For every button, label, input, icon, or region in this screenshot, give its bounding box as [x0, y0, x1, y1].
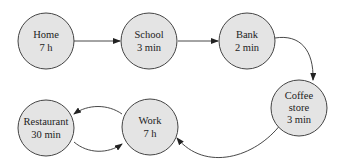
node-label: Restaurant — [24, 116, 69, 127]
node-label: School — [134, 29, 163, 40]
node-school: School 3 min — [121, 13, 177, 69]
node-value: 30 min — [31, 129, 61, 140]
node-work: Work 7 h — [122, 99, 178, 155]
node-label: Bank — [236, 29, 259, 40]
node-bank: Bank 2 min — [219, 13, 275, 69]
node-label: Work — [138, 115, 162, 126]
node-label: store — [289, 102, 310, 113]
edge-work-restaurant — [74, 107, 122, 115]
node-coffee-store: Coffee store 3 min — [271, 80, 327, 136]
edge-restaurant-work — [74, 142, 122, 151]
edge-bank-coffee — [275, 37, 313, 80]
node-label: Home — [33, 29, 59, 40]
node-value: 7 h — [143, 128, 157, 139]
edge-coffee-work — [177, 124, 281, 158]
node-label: Coffee — [285, 90, 314, 101]
flow-diagram: Home 7 h School 3 min Bank 2 min Coffee … — [0, 0, 343, 168]
node-value: 3 min — [137, 42, 162, 53]
node-home: Home 7 h — [18, 13, 74, 69]
node-value: 7 h — [39, 42, 53, 53]
node-restaurant: Restaurant 30 min — [18, 100, 74, 156]
node-value: 2 min — [235, 42, 260, 53]
node-value: 3 min — [287, 114, 312, 125]
